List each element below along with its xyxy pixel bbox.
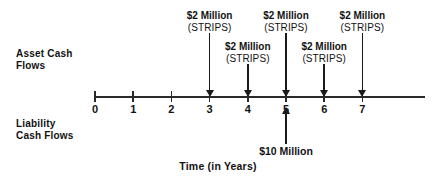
axis-tick (171, 91, 173, 102)
asset-flow-callout-year-7: $2 Million(STRIPS) (317, 10, 407, 34)
timeline-axis (94, 96, 425, 98)
axis-title: Time (in Years) (0, 160, 436, 172)
axis-tick-label-2: 2 (161, 103, 181, 115)
asset-flow-arrow-year-6 (323, 64, 325, 90)
asset-flow-arrow-year-7 (362, 33, 364, 90)
axis-tick-label-7: 7 (352, 103, 372, 115)
axis-tick-label-1: 1 (123, 103, 143, 115)
liability-flow-amount: $10 Million (236, 145, 336, 157)
liability-cash-flows-label: Liability Cash Flows (16, 118, 74, 142)
liability-flow-arrow-year-5 (285, 114, 287, 144)
cash-flow-timeline-diagram: Asset Cash Flows Liability Cash Flows 01… (0, 0, 436, 182)
asset-cash-flows-label: Asset Cash Flows (16, 48, 72, 72)
axis-tick (132, 91, 134, 102)
liability-flow-callout-year-5: $10 Million (236, 145, 336, 157)
axis-tick-label-4: 4 (238, 103, 258, 115)
axis-tick-label-0: 0 (85, 103, 105, 115)
axis-tick-label-3: 3 (200, 103, 220, 115)
asset-flow-callout-year-6: $2 Million(STRIPS) (279, 41, 369, 65)
axis-tick-label-6: 6 (314, 103, 334, 115)
asset-flow-arrow-year-4 (247, 64, 249, 90)
asset-flow-amount: $2 Million (317, 10, 407, 22)
axis-tick (94, 91, 96, 102)
asset-flow-amount: $2 Million (279, 41, 369, 53)
